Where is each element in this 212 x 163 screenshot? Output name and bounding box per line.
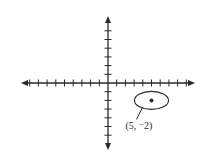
coordinate-plane	[0, 0, 212, 163]
arrow-left-icon	[21, 80, 28, 86]
point-dot	[150, 98, 154, 102]
leader-line	[137, 107, 143, 119]
point-label: (5, ⁻2)	[126, 121, 153, 131]
arrow-right-icon	[188, 80, 195, 86]
arrow-down-icon	[105, 143, 111, 150]
point-highlight	[135, 91, 169, 119]
arrow-up-icon	[105, 16, 111, 23]
